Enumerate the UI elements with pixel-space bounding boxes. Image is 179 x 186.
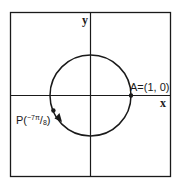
y-axis-label: y bbox=[82, 14, 88, 26]
p-numerator: 7π bbox=[31, 114, 40, 121]
x-axis-label: x bbox=[160, 97, 166, 109]
unit-circle-diagram bbox=[0, 0, 179, 186]
point-p-dot bbox=[51, 108, 55, 112]
p-prefix: P( bbox=[16, 114, 27, 126]
point-p-label: P(−7π/8) bbox=[16, 114, 50, 126]
point-a-dot bbox=[129, 93, 133, 97]
point-a-label: A=(1, 0) bbox=[130, 82, 169, 93]
p-suffix: ) bbox=[47, 114, 51, 126]
